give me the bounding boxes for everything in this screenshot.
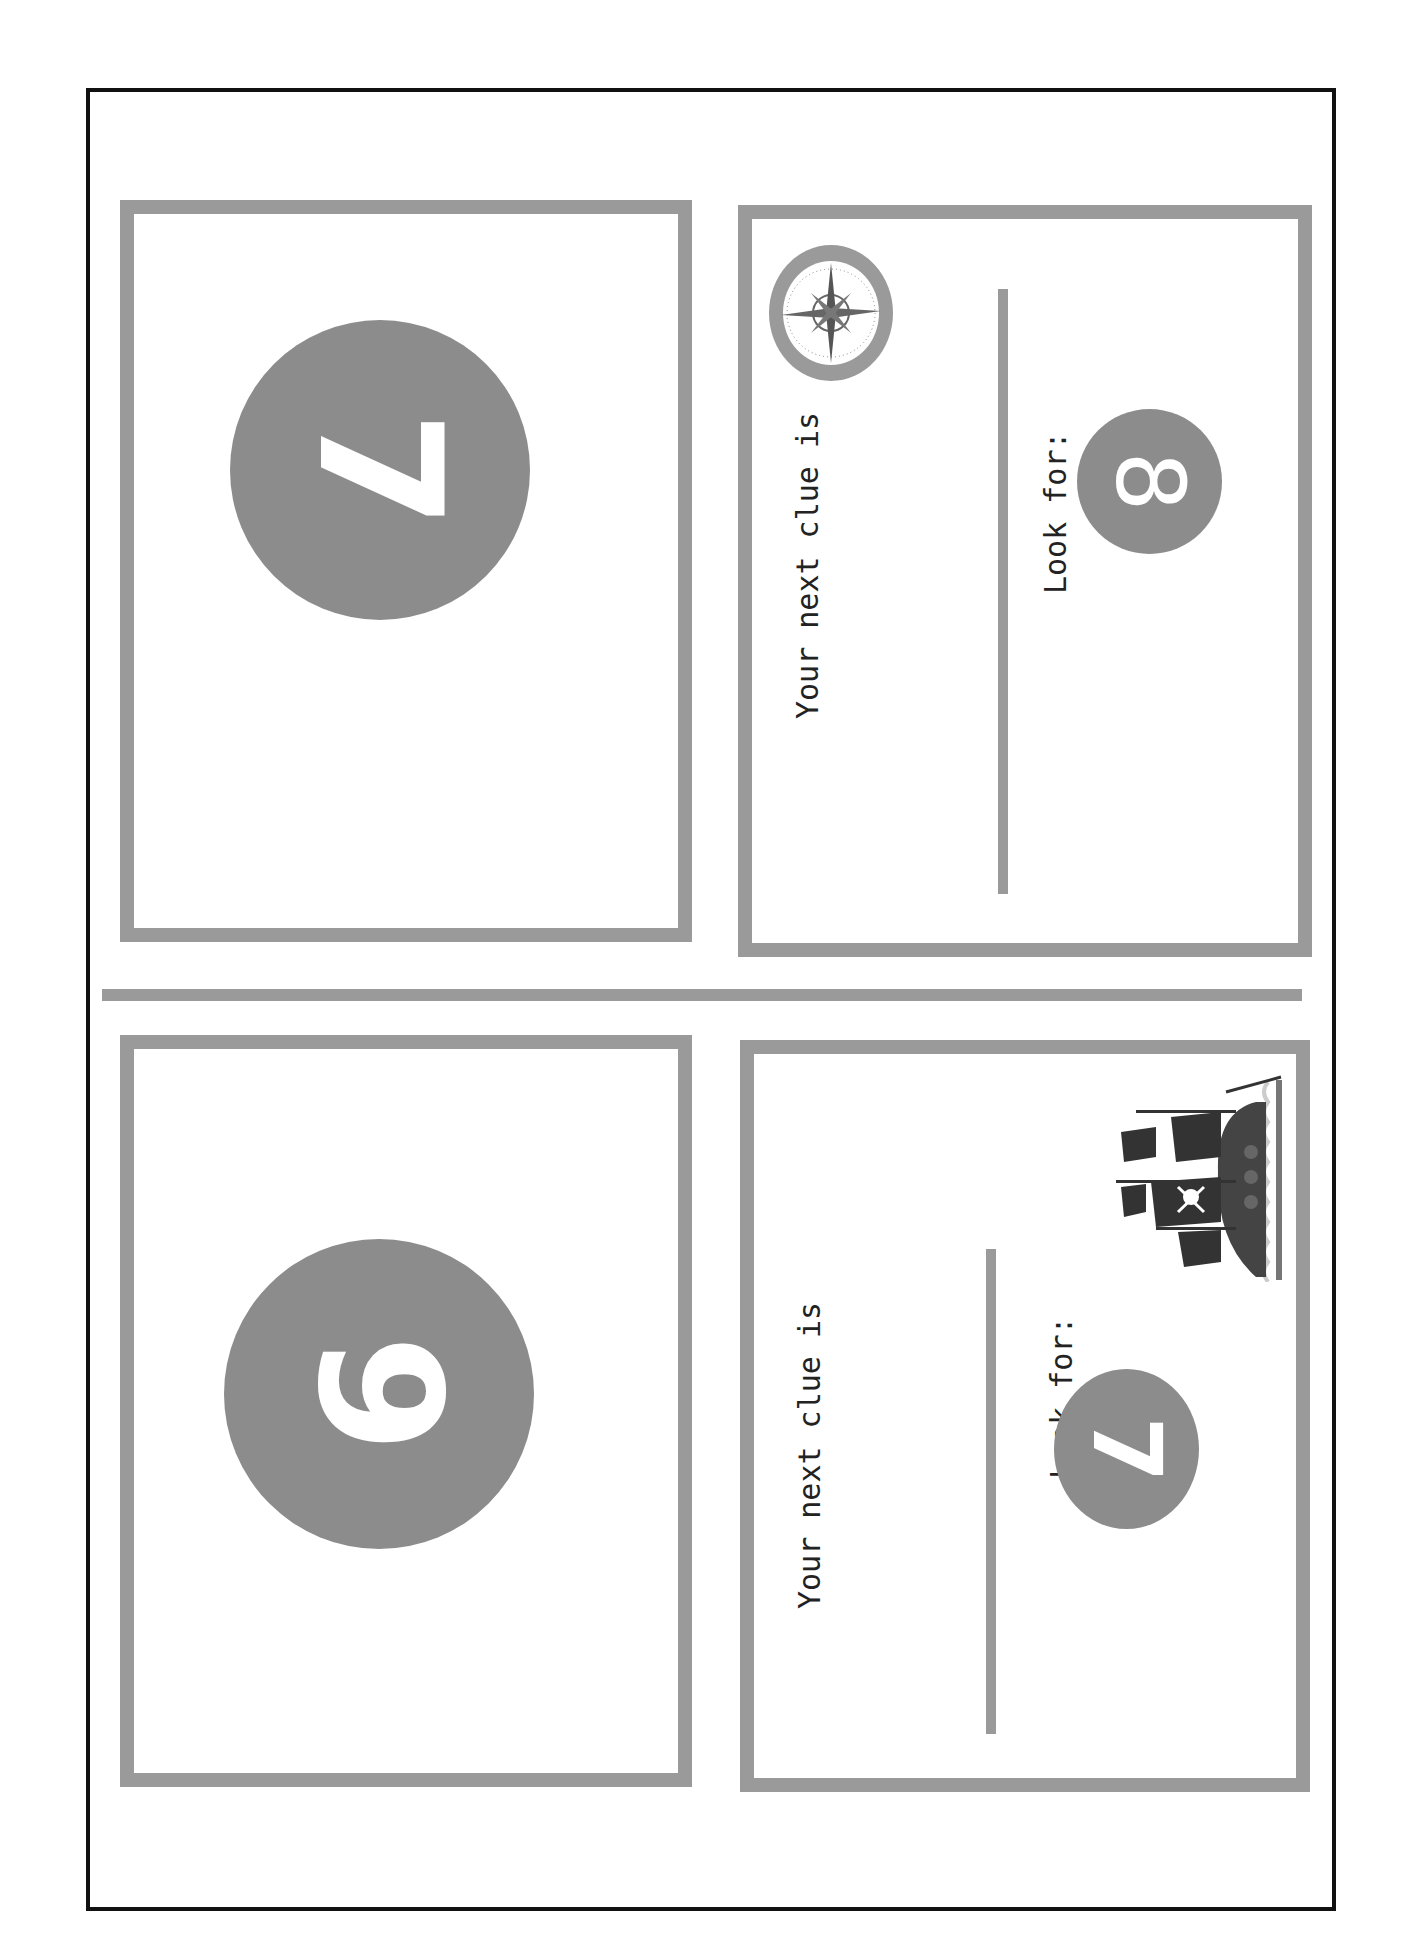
compass-icon xyxy=(766,243,896,383)
pirate-ship-icon xyxy=(1096,1072,1296,1282)
number-circle: 7 xyxy=(230,320,530,620)
clue-heading: Your next clue is xyxy=(790,412,825,719)
answer-line[interactable] xyxy=(986,1249,996,1734)
number-card-bottom: 9 xyxy=(120,1035,692,1787)
clue-card-top: Your next clue is Look for: 8 xyxy=(738,205,1312,957)
number-card-top: 7 xyxy=(120,200,692,942)
answer-line[interactable] xyxy=(998,289,1008,894)
card-number: 9 xyxy=(294,1335,464,1453)
cut-divider xyxy=(102,989,1302,1001)
card-number: 7 xyxy=(295,411,465,529)
clue-heading: Your next clue is xyxy=(792,1302,827,1609)
clue-card-bottom: Your next clue is Look for: 7 xyxy=(740,1040,1310,1792)
look-for-number: 7 xyxy=(1079,1416,1174,1482)
look-for-circle: 7 xyxy=(1054,1369,1199,1529)
look-for-circle: 8 xyxy=(1077,409,1222,554)
number-circle: 9 xyxy=(224,1239,534,1549)
look-for-label: Look for: xyxy=(1038,431,1073,594)
look-for-number: 8 xyxy=(1102,451,1197,511)
